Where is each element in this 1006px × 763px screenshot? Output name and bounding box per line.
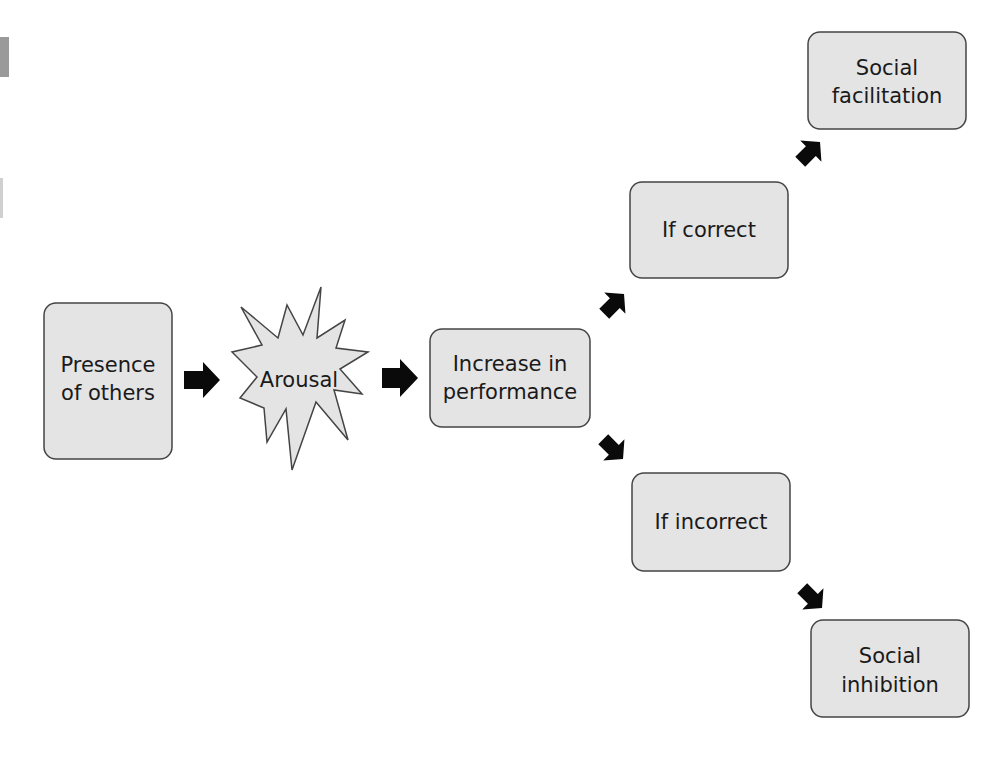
node-arousal: Arousal (232, 287, 368, 470)
node-label: If correct (662, 218, 756, 242)
node-label: performance (443, 380, 578, 404)
node-social-inhibition: Social inhibition (811, 620, 969, 717)
node-if-incorrect: If incorrect (632, 473, 790, 571)
arrow-down-right-icon (593, 429, 634, 470)
arrow-up-right-icon (790, 131, 831, 172)
node-if-correct: If correct (630, 182, 788, 278)
node-label: If incorrect (655, 510, 768, 534)
arrow-up-right-icon (594, 283, 635, 324)
node-label: Presence (60, 353, 155, 377)
node-presence-of-others: Presence of others (44, 303, 172, 459)
arrow-down-right-icon (792, 578, 833, 619)
node-label: inhibition (841, 673, 939, 697)
page-edge-tab (0, 37, 9, 77)
page-edge-mark (0, 178, 3, 218)
arrow-right-icon (382, 359, 418, 397)
node-label: Social (859, 644, 921, 668)
node-label: Social (856, 56, 918, 80)
node-label: of others (61, 381, 155, 405)
node-label: facilitation (832, 84, 943, 108)
node-label: Arousal (260, 368, 338, 392)
flow-diagram: Presence of others Arousal Increase in p… (0, 0, 1006, 763)
arrow-right-icon (184, 362, 220, 398)
node-increase-in-performance: Increase in performance (430, 329, 590, 427)
node-label: Increase in (453, 352, 568, 376)
node-social-facilitation: Social facilitation (808, 32, 966, 129)
